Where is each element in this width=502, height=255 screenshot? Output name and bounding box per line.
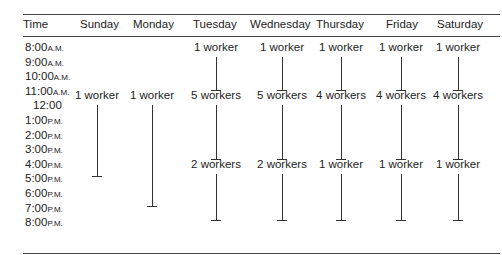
time-label: 8:00P.M.: [25, 216, 63, 228]
shift-end-tick: [453, 220, 463, 221]
shift-end-tick: [211, 220, 221, 221]
header-friday: Friday: [386, 18, 418, 30]
shift-line: [341, 57, 342, 90]
worker-count-label: 1 worker: [319, 41, 363, 53]
shift-line: [401, 174, 402, 220]
worker-count-label: 1 worker: [436, 41, 480, 53]
shift-line: [282, 105, 283, 159]
worker-count-label: 2 workers: [257, 158, 307, 170]
header-sunday: Sunday: [80, 18, 119, 30]
header-monday: Monday: [133, 18, 174, 30]
shift-end-tick: [147, 206, 157, 207]
worker-count-label: 5 workers: [257, 89, 307, 101]
time-label: 9:00A.M.: [25, 56, 64, 68]
header-saturday: Saturday: [437, 18, 483, 30]
worker-count-label: 1 worker: [130, 89, 174, 101]
worker-count-label: 5 workers: [191, 89, 241, 101]
top-rule: [23, 14, 500, 15]
worker-count-label: 1 worker: [319, 158, 363, 170]
header-rule: [23, 36, 500, 37]
worker-count-label: 1 worker: [194, 41, 238, 53]
shift-end-tick: [277, 220, 287, 221]
shift-end-tick: [336, 220, 346, 221]
worker-count-label: 4 workers: [376, 89, 426, 101]
time-label: 5:00P.M.: [25, 172, 63, 184]
shift-line: [401, 57, 402, 90]
worker-count-label: 2 workers: [191, 158, 241, 170]
worker-count-label: 1 worker: [75, 89, 119, 101]
header-thursday: Thursday: [316, 18, 364, 30]
time-label: 12:00: [33, 99, 62, 111]
shift-end-tick: [396, 220, 406, 221]
time-label: 8:00A.M.: [25, 41, 64, 53]
shift-line: [458, 105, 459, 159]
shift-line: [458, 174, 459, 220]
time-label: 6:00P.M.: [25, 187, 63, 199]
time-label: 11:00A.M.: [25, 85, 69, 97]
shift-line: [216, 105, 217, 159]
shift-line: [401, 105, 402, 159]
shift-end-tick: [92, 176, 102, 177]
shift-line: [216, 174, 217, 220]
shift-line: [458, 57, 459, 90]
shift-line: [152, 105, 153, 206]
time-label: 10:00A.M.: [25, 70, 70, 82]
worker-count-label: 1 worker: [260, 41, 304, 53]
time-label: 1:00P.M.: [25, 114, 63, 126]
bottom-rule: [23, 253, 500, 254]
worker-count-label: 4 workers: [316, 89, 366, 101]
worker-count-label: 1 worker: [379, 41, 423, 53]
worker-count-label: 1 worker: [379, 158, 423, 170]
worker-count-label: 1 worker: [436, 158, 480, 170]
shift-line: [282, 174, 283, 220]
shift-line: [216, 57, 217, 90]
shift-line: [282, 57, 283, 90]
time-label: 4:00P.M.: [25, 158, 63, 170]
shift-line: [341, 105, 342, 159]
shift-line: [97, 105, 98, 176]
time-label: 2:00P.M.: [25, 129, 63, 141]
header-tuesday: Tuesday: [193, 18, 237, 30]
header-wednesday: Wednesday: [250, 18, 311, 30]
worker-count-label: 4 workers: [433, 89, 483, 101]
time-label: 3:00P.M.: [25, 143, 63, 155]
header-time: Time: [23, 18, 48, 30]
time-label: 7:00P.M.: [25, 202, 63, 214]
shift-line: [341, 174, 342, 220]
